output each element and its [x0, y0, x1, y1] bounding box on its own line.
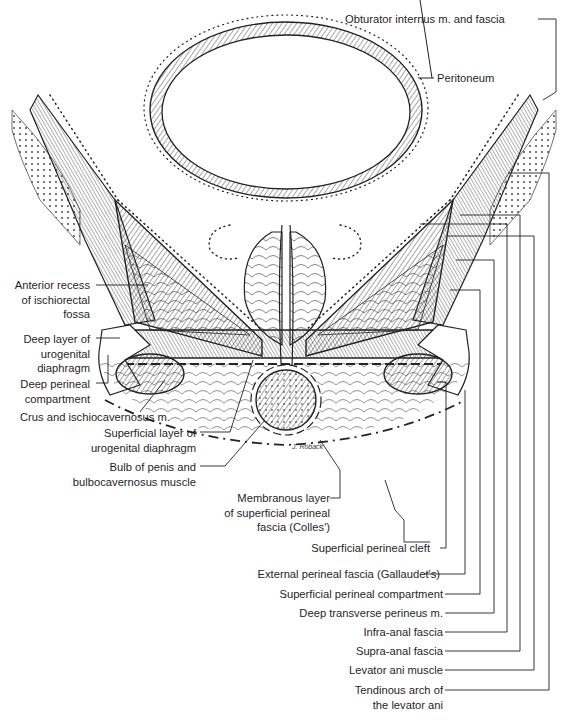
urogenital-diaphragm	[110, 330, 460, 358]
label-peritoneum: Peritoneum	[437, 71, 494, 86]
label-membranous-layer-colles: Membranous layer of superficial perineal…	[224, 491, 330, 535]
artist-signature: J. Roback	[292, 443, 323, 450]
label-anterior-recess: Anterior recess of ischiorectal fossa	[15, 278, 90, 322]
label-tendinous-arch: Tendinous arch of the levator ani	[355, 683, 443, 712]
label-obturator-internus: Obturator internus m. and fascia	[345, 12, 505, 27]
label-bulb-of-penis: Bulb of penis and bulbocavernosus muscle	[73, 460, 196, 489]
label-crus-ischiocavernosus: Crus and ischiocavernosus m.	[20, 410, 170, 425]
label-deep-layer-ug-diaphragm: Deep layer of urogenital diaphragm	[23, 332, 90, 376]
label-deep-transverse-perineus: Deep transverse perineus m.	[299, 606, 443, 621]
label-superficial-layer-ug-diaphragm: Superficial layer of urogenital diaphrag…	[91, 426, 196, 455]
label-infra-anal-fascia: Infra-anal fascia	[363, 625, 443, 640]
label-deep-perineal-compartment: Deep perineal compartment	[20, 377, 90, 406]
label-external-perineal-fascia: External perineal fascia (Gallaudet's)	[258, 567, 440, 582]
label-superficial-perineal-compartment: Superficial perineal compartment	[279, 587, 443, 602]
label-superficial-perineal-cleft: Superficial perineal cleft	[311, 541, 430, 556]
label-supra-anal-fascia: Supra-anal fascia	[356, 644, 443, 659]
obturator-leader	[538, 19, 556, 100]
bladder	[144, 15, 428, 201]
label-levator-ani-muscle: Levator ani muscle	[349, 663, 443, 678]
